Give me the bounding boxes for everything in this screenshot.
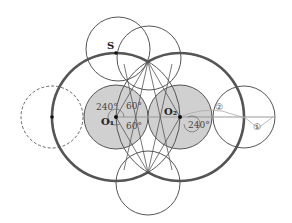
point-o2 <box>178 115 182 119</box>
label-o1: O₁ <box>101 116 114 127</box>
geometry-diagram: S O₁ O₂ 240° 60° 60° 240° ② ① <box>0 0 292 223</box>
angle-60-upper: 60° <box>126 101 142 111</box>
angle-240-o1: 240° <box>96 102 118 112</box>
point-left <box>50 115 54 119</box>
marker-1: ① <box>253 122 261 132</box>
point-s <box>114 51 118 55</box>
circle-bottom <box>116 151 180 215</box>
angle-240-o2: 240° <box>188 120 210 130</box>
label-s: S <box>107 40 114 51</box>
point-o1 <box>114 115 118 119</box>
marker-2: ② <box>215 102 223 112</box>
label-o2: O₂ <box>164 106 177 117</box>
angle-60-lower: 60° <box>126 121 142 131</box>
